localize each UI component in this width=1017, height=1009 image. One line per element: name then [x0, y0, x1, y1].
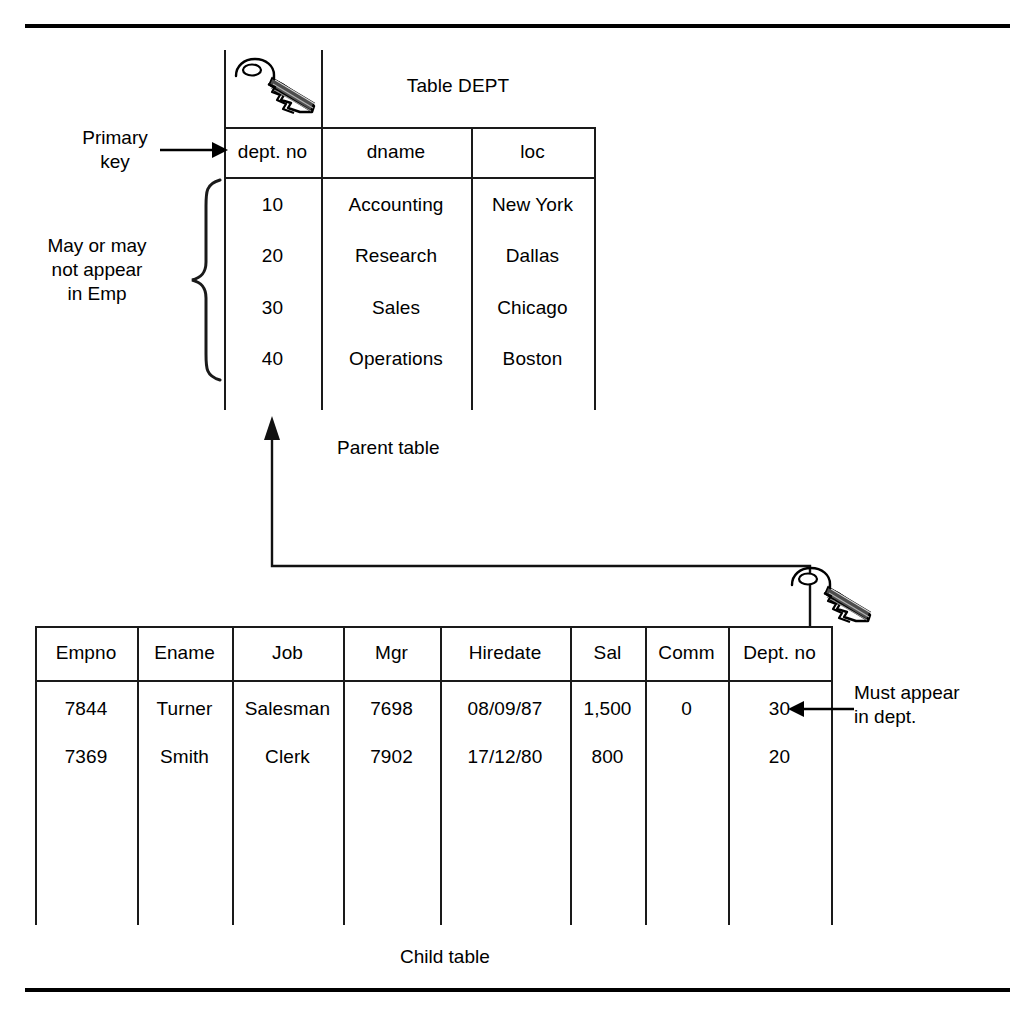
dept-header-dept-no: dept. no [224, 127, 321, 177]
emp-cell-0-0: 7844 [35, 688, 137, 730]
emp-cell-1-4: 17/12/80 [440, 736, 570, 778]
emp-header-ename: Ename [137, 626, 232, 680]
dept-cell-3-0: 40 [224, 337, 321, 381]
dept-cell-3-2: Boston [471, 337, 594, 381]
emp-header-comm: Comm [645, 626, 728, 680]
emp-header-bottom-border [35, 680, 833, 682]
key-icon [784, 563, 876, 625]
must-appear-arrow [788, 697, 856, 721]
relationship-diagram: Table DEPT dept. no dname loc 10 Account… [0, 0, 1017, 1009]
emp-cell-0-4: 08/09/87 [440, 688, 570, 730]
emp-cell-1-0: 7369 [35, 736, 137, 778]
dept-cell-1-0: 20 [224, 234, 321, 278]
dept-cell-2-0: 30 [224, 286, 321, 330]
emp-cell-1-6 [645, 736, 728, 778]
dept-cell-2-1: Sales [321, 286, 471, 330]
emp-cell-0-3: 7698 [343, 688, 440, 730]
dept-header-dname: dname [321, 127, 471, 177]
emp-cell-1-3: 7902 [343, 736, 440, 778]
dept-cell-1-2: Dallas [471, 234, 594, 278]
must-appear-annotation: Must appear in dept. [854, 681, 1004, 729]
dept-cell-2-2: Chicago [471, 286, 594, 330]
dept-cell-0-2: New York [471, 183, 594, 227]
emp-cell-1-5: 800 [570, 736, 645, 778]
emp-outer-right-border [831, 626, 833, 925]
emp-header-sal: Sal [570, 626, 645, 680]
dept-cell-1-1: Research [321, 234, 471, 278]
emp-cell-0-6: 0 [645, 688, 728, 730]
dept-cell-0-0: 10 [224, 183, 321, 227]
emp-header-empno: Empno [35, 626, 137, 680]
dept-outer-right-border [594, 127, 596, 410]
optional-brace [176, 176, 224, 384]
emp-cell-1-2: Clerk [232, 736, 343, 778]
emp-cell-0-5: 1,500 [570, 688, 645, 730]
parent-table-caption: Parent table [337, 437, 439, 459]
emp-cell-0-1: Turner [137, 688, 232, 730]
dept-cell-3-1: Operations [321, 337, 471, 381]
dept-table-title: Table DEPT [321, 58, 595, 114]
emp-header-job: Job [232, 626, 343, 680]
may-or-may-not-annotation: May or may not appear in Emp [22, 234, 172, 305]
key-icon [228, 54, 320, 116]
child-table-caption: Child table [400, 946, 490, 968]
emp-cell-0-2: Salesman [232, 688, 343, 730]
emp-header-hiredate: Hiredate [440, 626, 570, 680]
emp-cell-1-1: Smith [137, 736, 232, 778]
dept-cell-0-1: Accounting [321, 183, 471, 227]
bottom-rule [25, 988, 1010, 992]
primary-key-annotation: Primary key [60, 126, 170, 174]
primary-key-arrow [160, 138, 230, 162]
emp-header-mgr: Mgr [343, 626, 440, 680]
dept-header-bottom-border [224, 177, 596, 179]
emp-cell-1-7: 20 [728, 736, 831, 778]
emp-header-dept-no: Dept. no [728, 626, 831, 680]
top-rule [25, 24, 1010, 28]
dept-header-loc: loc [471, 127, 594, 177]
